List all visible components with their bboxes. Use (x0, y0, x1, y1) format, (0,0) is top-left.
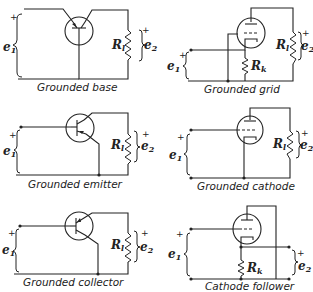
input-plus: + (8, 228, 16, 238)
input-voltage-label: e1 (3, 40, 16, 55)
input-brace (184, 134, 190, 175)
cathode-resistor-label: Rk (250, 59, 267, 74)
panel-grounded-base: + + e1 Rl e2 Grounded base (3, 9, 158, 93)
output-plus: + (142, 129, 150, 139)
input-voltage-label: e1 (169, 148, 182, 163)
output-terminal (287, 245, 290, 248)
transistor-symbol (65, 17, 93, 45)
output-voltage-label: e2 (140, 240, 154, 255)
output-plus: + (302, 28, 310, 38)
input-voltage-label: e1 (168, 247, 181, 262)
triode-symbol (237, 116, 263, 144)
input-terminal (189, 48, 192, 51)
caption-grounded-base: Grounded base (37, 81, 117, 93)
input-plus: + (179, 50, 187, 60)
input-terminal (19, 125, 22, 128)
output-voltage-label: e2 (298, 259, 312, 274)
input-voltage-label: e1 (167, 59, 180, 74)
input-terminal (189, 128, 192, 131)
output-plus: + (141, 228, 149, 238)
triode-symbol (237, 18, 265, 48)
load-resistor (125, 233, 131, 262)
input-plus: + (177, 132, 185, 142)
transistor-symbol (66, 114, 94, 142)
output-brace (134, 131, 140, 162)
load-resistor (287, 131, 293, 159)
output-voltage-label: e2 (301, 39, 313, 54)
load-resistor-label: Rl (272, 137, 286, 152)
load-resistor-label: Rl (110, 138, 124, 153)
amplifier-configurations-diagram: + + e1 Rl e2 Grounded base (0, 0, 313, 292)
output-plus: + (142, 25, 150, 35)
caption-grounded-cathode: Grounded cathode (197, 180, 295, 192)
panel-grounded-emitter: + + e1 Rl e2 Grounded emitter (3, 113, 155, 190)
load-resistor (290, 32, 296, 64)
panel-grounded-grid: + + e1 Rk Rl e2 Grounded grid (167, 8, 313, 95)
caption-grounded-grid: Grounded grid (204, 83, 280, 95)
output-plus: + (297, 248, 305, 258)
cathode-resistor-label: Rk (246, 261, 263, 276)
output-voltage-label: e2 (141, 139, 155, 154)
output-plus: + (301, 128, 309, 138)
load-resistor-label: Rl (111, 38, 125, 53)
input-terminal (189, 227, 192, 230)
input-terminal (18, 224, 21, 227)
caption-grounded-emitter: Grounded emitter (28, 178, 123, 190)
input-brace (184, 233, 190, 276)
load-resistor-label: Rl (110, 238, 124, 253)
output-voltage-label: e2 (144, 38, 158, 53)
input-ground-terminal (189, 176, 192, 179)
cathode-resistor (242, 58, 248, 74)
input-plus: + (10, 12, 18, 22)
output-voltage-label: e2 (300, 138, 313, 153)
panel-grounded-collector: + + e1 Rl e2 Grounded collector (2, 212, 154, 288)
caption-grounded-collector: Grounded collector (23, 276, 124, 288)
input-voltage-label: e1 (2, 243, 15, 258)
load-resistor (125, 30, 131, 60)
load-resistor-label: Rl (275, 38, 289, 53)
input-voltage-label: e1 (3, 144, 16, 159)
cathode-resistor (238, 260, 244, 276)
panel-grounded-cathode: + + e1 Rl e2 Grounded cathode (169, 108, 313, 192)
panel-cathode-follower: + + e1 Rk e2 Cathode follower (168, 206, 312, 292)
load-resistor (125, 134, 131, 164)
ground-node (97, 173, 100, 176)
caption-cathode-follower: Cathode follower (205, 280, 295, 292)
input-plus: + (9, 130, 17, 140)
input-plus: + (176, 229, 184, 239)
input-ground-terminal (189, 277, 192, 280)
